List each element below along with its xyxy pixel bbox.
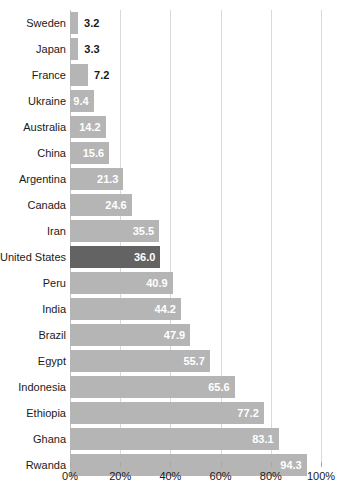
bar-value-label: 55.7 bbox=[183, 356, 209, 367]
bar-track: 44.2 bbox=[70, 296, 342, 322]
bar-track: 40.9 bbox=[70, 270, 342, 296]
bar-value-label: 40.9 bbox=[146, 278, 172, 289]
bar-row[interactable]: Ukraine9.4 bbox=[0, 88, 342, 114]
category-label: Indonesia bbox=[0, 382, 66, 393]
bar-row[interactable]: Australia14.2 bbox=[0, 114, 342, 140]
bar-value-label: 36.0 bbox=[134, 252, 160, 263]
bar-track: 3.2 bbox=[70, 10, 342, 36]
bar[interactable]: 15.6 bbox=[70, 142, 109, 164]
bar[interactable]: 7.2 bbox=[70, 64, 88, 86]
x-tick-label: 100% bbox=[307, 471, 335, 482]
bar-value-label: 15.6 bbox=[83, 148, 109, 159]
bar-value-label: 24.6 bbox=[105, 200, 131, 211]
category-label: India bbox=[0, 304, 66, 315]
bar-row[interactable]: France7.2 bbox=[0, 62, 342, 88]
bar[interactable]: 35.5 bbox=[70, 220, 159, 242]
bar[interactable]: 21.3 bbox=[70, 168, 123, 190]
bar[interactable]: 3.2 bbox=[70, 12, 78, 34]
category-label: United States bbox=[0, 252, 66, 263]
category-label: Iran bbox=[0, 226, 66, 237]
bar-value-label: 44.2 bbox=[155, 304, 181, 315]
bar-track: 15.6 bbox=[70, 140, 342, 166]
category-label: Brazil bbox=[0, 330, 66, 341]
bar-row[interactable]: United States36.0 bbox=[0, 244, 342, 270]
bar-track: 9.4 bbox=[70, 88, 342, 114]
bar-value-label: 3.2 bbox=[78, 18, 99, 29]
x-tick-mark bbox=[321, 462, 322, 467]
bar-row[interactable]: China15.6 bbox=[0, 140, 342, 166]
bar-value-label: 21.3 bbox=[97, 174, 123, 185]
bar-track: 24.6 bbox=[70, 192, 342, 218]
bar-row[interactable]: India44.2 bbox=[0, 296, 342, 322]
bar-track: 55.7 bbox=[70, 348, 342, 374]
bar-value-label: 9.4 bbox=[73, 96, 93, 107]
bar-track: 14.2 bbox=[70, 114, 342, 140]
x-tick-label: 0% bbox=[62, 471, 78, 482]
bar[interactable]: 47.9 bbox=[70, 324, 190, 346]
x-tick-label: 60% bbox=[210, 471, 232, 482]
bar[interactable]: 3.3 bbox=[70, 38, 78, 60]
category-label: China bbox=[0, 148, 66, 159]
bar[interactable]: 77.2 bbox=[70, 402, 264, 424]
category-label: Japan bbox=[0, 44, 66, 55]
category-label: Canada bbox=[0, 200, 66, 211]
x-tick-mark bbox=[170, 462, 171, 467]
category-label: Egypt bbox=[0, 356, 66, 367]
bar-row[interactable]: Peru40.9 bbox=[0, 270, 342, 296]
bar[interactable]: 24.6 bbox=[70, 194, 132, 216]
category-label: Peru bbox=[0, 278, 66, 289]
bar[interactable]: 40.9 bbox=[70, 272, 173, 294]
bar-track: 21.3 bbox=[70, 166, 342, 192]
bar-row[interactable]: Brazil47.9 bbox=[0, 322, 342, 348]
category-label: Sweden bbox=[0, 18, 66, 29]
x-tick-label: 80% bbox=[260, 471, 282, 482]
x-tick-mark bbox=[271, 462, 272, 467]
bar-value-label: 65.6 bbox=[208, 382, 234, 393]
x-axis: 0%20%40%60%80%100% bbox=[0, 462, 342, 496]
bar[interactable]: 65.6 bbox=[70, 376, 235, 398]
bar[interactable]: 9.4 bbox=[70, 90, 94, 112]
bar-track: 35.5 bbox=[70, 218, 342, 244]
x-tick-mark bbox=[221, 462, 222, 467]
bar-track: 36.0 bbox=[70, 244, 342, 270]
x-tick-label: 40% bbox=[159, 471, 181, 482]
bar-track: 47.9 bbox=[70, 322, 342, 348]
x-tick-mark bbox=[70, 462, 71, 467]
bar-row[interactable]: Argentina21.3 bbox=[0, 166, 342, 192]
bar[interactable]: 44.2 bbox=[70, 298, 181, 320]
bar-row[interactable]: Iran35.5 bbox=[0, 218, 342, 244]
bar[interactable]: 55.7 bbox=[70, 350, 210, 372]
category-label: France bbox=[0, 70, 66, 81]
bar-row[interactable]: Canada24.6 bbox=[0, 192, 342, 218]
bar[interactable]: 14.2 bbox=[70, 116, 106, 138]
category-label: Argentina bbox=[0, 174, 66, 185]
bar-value-label: 47.9 bbox=[164, 330, 190, 341]
category-label: Ghana bbox=[0, 434, 66, 445]
bar-value-label: 7.2 bbox=[88, 70, 109, 81]
bar-value-label: 3.3 bbox=[78, 44, 99, 55]
bar-track: 65.6 bbox=[70, 374, 342, 400]
bar-chart: Sweden3.2Japan3.3France7.2Ukraine9.4Aust… bbox=[0, 0, 342, 496]
bar-value-label: 14.2 bbox=[79, 122, 105, 133]
bar-track: 83.1 bbox=[70, 426, 342, 452]
category-label: Ethiopia bbox=[0, 408, 66, 419]
bar-value-label: 83.1 bbox=[252, 434, 278, 445]
bar-value-label: 77.2 bbox=[237, 408, 263, 419]
category-label: Australia bbox=[0, 122, 66, 133]
bar-row[interactable]: Egypt55.7 bbox=[0, 348, 342, 374]
bar-row[interactable]: Ethiopia77.2 bbox=[0, 400, 342, 426]
bar-rows: Sweden3.2Japan3.3France7.2Ukraine9.4Aust… bbox=[0, 10, 342, 478]
bar-highlighted[interactable]: 36.0 bbox=[70, 246, 160, 268]
bar-value-label: 35.5 bbox=[133, 226, 159, 237]
bar-track: 7.2 bbox=[70, 62, 342, 88]
bar-track: 3.3 bbox=[70, 36, 342, 62]
bar-row[interactable]: Indonesia65.6 bbox=[0, 374, 342, 400]
bar-row[interactable]: Ghana83.1 bbox=[0, 426, 342, 452]
bar-row[interactable]: Japan3.3 bbox=[0, 36, 342, 62]
bar-row[interactable]: Sweden3.2 bbox=[0, 10, 342, 36]
x-tick-mark bbox=[120, 462, 121, 467]
bar[interactable]: 83.1 bbox=[70, 428, 279, 450]
x-tick-label: 20% bbox=[109, 471, 131, 482]
bar-track: 77.2 bbox=[70, 400, 342, 426]
category-label: Ukraine bbox=[0, 96, 66, 107]
